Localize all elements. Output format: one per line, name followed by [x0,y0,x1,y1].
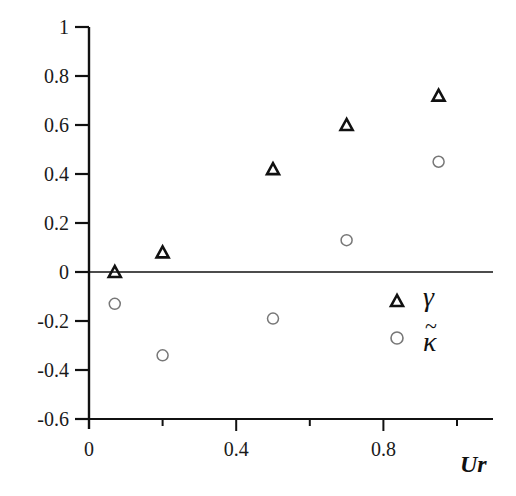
triangle-data-point [267,163,279,174]
circle-data-point [341,235,352,246]
circle-data-point [157,350,168,361]
x-tick-label: 0.8 [371,438,396,460]
series-triangle [109,90,445,277]
triangle-data-point [157,246,169,257]
triangle-marker-icon [391,295,403,306]
y-tick-label: 0 [59,261,69,283]
circle-data-point [433,156,444,167]
legend-label-gamma: γ [423,281,435,312]
y-tick-label: 0.4 [44,163,69,185]
legend-item-kappa: κ ~ [391,313,437,357]
y-tick-label: -0.6 [37,408,69,430]
circle-data-point [268,313,279,324]
triangle-data-point [341,119,353,130]
y-tick-label: 1 [59,16,69,38]
y-tick-label: 0.6 [44,114,69,136]
legend: γ κ ~ [391,281,437,357]
circle-marker-icon [391,332,403,344]
y-tick-label: -0.4 [37,359,69,381]
triangle-data-point [433,90,445,101]
data-points [109,90,445,361]
legend-tilde-accent: ~ [425,313,437,338]
y-tick-label: 0.8 [44,65,69,87]
y-tick-label: -0.2 [37,310,69,332]
x-axis-title: Ur [460,451,487,477]
x-tick-label: 0 [84,438,94,460]
y-tick-label: 0.2 [44,212,69,234]
x-tick-label: 0.4 [224,438,249,460]
legend-item-gamma: γ [391,281,435,312]
scatter-chart: 10.80.60.40.20-0.2-0.4-0.600.40.8 γ κ ~ … [0,0,516,496]
axes: 10.80.60.40.20-0.2-0.4-0.600.40.8 [37,16,493,460]
circle-data-point [109,298,120,309]
